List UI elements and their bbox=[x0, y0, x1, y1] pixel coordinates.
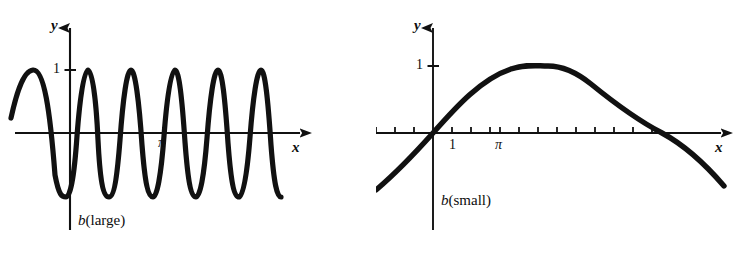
plot-b-large-canvas bbox=[0, 0, 376, 253]
caption-b-small-text: (small) bbox=[449, 192, 492, 208]
caption-b-large-symbol: b bbox=[78, 212, 86, 228]
plot-b-small: y x 1 1 π b(small) bbox=[376, 0, 751, 253]
plot-b-large: y x 1 π b(large) bbox=[0, 0, 376, 253]
y-tick-label-one-large: 1 bbox=[53, 62, 60, 76]
y-tick-label-one-small: 1 bbox=[416, 58, 423, 72]
curve-b-small bbox=[376, 66, 724, 190]
caption-b-small: b(small) bbox=[441, 193, 491, 208]
plot-b-small-canvas bbox=[376, 0, 751, 253]
x-axis-label-small: x bbox=[715, 140, 723, 155]
caption-b-large-text: (large) bbox=[86, 212, 126, 228]
y-axis-label-large: y bbox=[51, 18, 58, 33]
x-axis-label-large: x bbox=[292, 140, 300, 155]
figure-two-sine-plots: y x 1 π b(large) bbox=[0, 0, 751, 253]
y-axis-label-small: y bbox=[414, 18, 421, 33]
x-tick-label-pi-small: π bbox=[495, 138, 502, 152]
x-tick-label-pi-large: π bbox=[158, 136, 165, 150]
x-tick-label-one-small: 1 bbox=[449, 138, 456, 152]
caption-b-small-symbol: b bbox=[441, 192, 449, 208]
caption-b-large: b(large) bbox=[78, 213, 125, 228]
